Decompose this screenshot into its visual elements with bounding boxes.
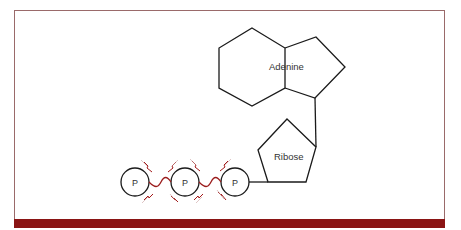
- lightning-icon: [220, 161, 228, 171]
- phosphate-label-3: P: [232, 178, 238, 188]
- atp-diagram: Adenine Ribose P P P: [0, 0, 461, 230]
- lightning-icon: [144, 194, 153, 200]
- phosphate-label-2: P: [182, 178, 188, 188]
- high-energy-bond-1: [149, 178, 171, 187]
- bottom-accent-bar: [14, 219, 445, 228]
- lightning-icon: [144, 162, 152, 172]
- ribose-label: Ribose: [274, 151, 304, 162]
- high-energy-bond-2: [199, 178, 221, 187]
- phosphate-label-1: P: [132, 178, 138, 188]
- glycosidic-bond: [315, 98, 316, 147]
- adenine-label: Adenine: [269, 61, 304, 72]
